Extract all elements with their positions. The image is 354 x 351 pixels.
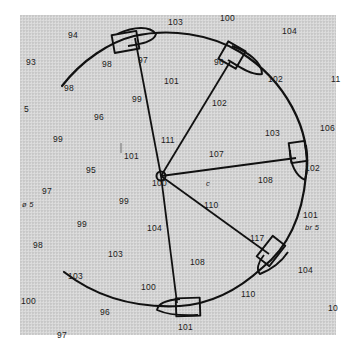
sounding-label: 101 <box>164 77 179 86</box>
swing-circle-diagram <box>0 0 354 351</box>
sounding-label: 99 <box>132 95 142 104</box>
sounding-label: 100 <box>21 297 36 306</box>
sounding-label: 93 <box>26 58 36 67</box>
sounding-label: 104 <box>282 27 297 36</box>
sounding-label: 98 <box>64 84 74 93</box>
sounding-label: 101 <box>303 211 318 220</box>
sounding-label: 96 <box>100 308 110 317</box>
sounding-label: 110 <box>204 201 218 210</box>
sounding-label: 108 <box>190 258 205 267</box>
sounding-label: 107 <box>209 150 224 159</box>
sounding-label: 103 <box>108 250 123 259</box>
sounding-label: 95 <box>86 166 96 175</box>
sounding-label: 94 <box>68 31 78 40</box>
sounding-label: 117 <box>250 234 264 243</box>
sounding-label: 102 <box>268 75 283 84</box>
sounding-label: 102 <box>305 164 320 173</box>
sounding-label: 101 <box>124 152 139 161</box>
boat-icon-3 <box>289 141 308 180</box>
sounding-label: 100 <box>220 14 235 23</box>
sounding-label: 96 <box>94 113 104 122</box>
bottom-type-note: br 5 <box>305 224 319 232</box>
center-note: c <box>206 180 210 188</box>
sounding-label: 5 <box>24 105 29 114</box>
sounding-label: 106 <box>320 124 335 133</box>
sounding-label: 110 <box>241 290 255 299</box>
sounding-label: 97 <box>57 331 67 340</box>
bottom-type-note: ø 5 <box>22 201 34 209</box>
sounding-label: 103 <box>168 18 183 27</box>
sounding-label: 99 <box>77 220 87 229</box>
sounding-label: 111 <box>161 136 175 145</box>
sounding-label: 102 <box>212 99 227 108</box>
sounding-label: 103 <box>68 272 83 281</box>
sounding-label: 97 <box>138 56 148 65</box>
sounding-label: 96 <box>214 58 224 67</box>
sounding-label: 98 <box>33 241 43 250</box>
sounding-label: 97 <box>42 187 52 196</box>
sounding-label: 104 <box>147 224 162 233</box>
sounding-label: 10 <box>328 304 338 313</box>
sounding-label: 99 <box>119 197 129 206</box>
sounding-label: 101 <box>178 323 193 332</box>
sounding-label: 108 <box>258 176 273 185</box>
sounding-label: 11 <box>331 75 340 84</box>
sounding-label: 103 <box>265 129 280 138</box>
sounding-label: 100 <box>141 283 156 292</box>
sounding-label: 99 <box>53 135 63 144</box>
sounding-label: 104 <box>298 266 313 275</box>
sounding-label: 98 <box>102 60 112 69</box>
center-label: 100 <box>152 179 167 188</box>
